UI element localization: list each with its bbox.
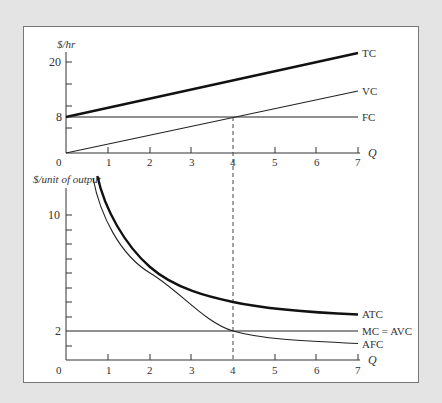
svg-text:2: 2	[147, 364, 153, 376]
mc-avc-label: MC = AVC	[362, 325, 412, 337]
bottom-q-label: Q	[368, 353, 377, 367]
bottom-y-axis-label: $/unit of output	[33, 173, 102, 185]
vc-line	[66, 91, 358, 153]
bottom-y-ticks	[66, 215, 72, 346]
atc-curve	[97, 176, 358, 315]
svg-text:2: 2	[147, 156, 153, 168]
top-y-axis-label: $/hr	[57, 38, 76, 50]
svg-text:0: 0	[56, 364, 62, 376]
svg-text:5: 5	[272, 156, 278, 168]
svg-text:6: 6	[314, 156, 320, 168]
svg-text:3: 3	[189, 156, 195, 168]
tc-line	[66, 53, 358, 117]
svg-text:6: 6	[314, 364, 320, 376]
bottom-x-tick-labels: 0 1 2 3 4 5 6 7	[56, 364, 361, 376]
fc-label: FC	[362, 111, 375, 123]
atc-label: ATC	[362, 308, 383, 320]
afc-label: AFC	[362, 338, 383, 350]
svg-text:3: 3	[189, 364, 195, 376]
top-y-tick-8: 8	[56, 110, 62, 124]
top-chart: $/hr 20 8 0 1 2 3 4 5 6	[49, 38, 377, 168]
top-q-label: Q	[368, 146, 377, 160]
svg-text:1: 1	[106, 364, 112, 376]
svg-text:0: 0	[56, 156, 62, 168]
bottom-y-tick-2: 2	[55, 324, 61, 338]
afc-curve	[93, 178, 358, 344]
bottom-y-tick-10: 10	[48, 208, 60, 222]
top-x-tick-labels: 0 1 2 3 4 5 6 7	[56, 156, 361, 168]
svg-text:1: 1	[106, 156, 112, 168]
vc-label: VC	[362, 85, 377, 97]
top-y-tick-20: 20	[49, 55, 61, 69]
svg-text:7: 7	[355, 364, 361, 376]
bottom-chart: $/unit of output 10 2 0 1 2	[33, 173, 412, 376]
svg-text:5: 5	[272, 364, 278, 376]
cost-curves-figure: $/hr 20 8 0 1 2 3 4 5 6	[0, 0, 442, 403]
svg-text:7: 7	[355, 156, 361, 168]
svg-text:4: 4	[230, 364, 236, 376]
top-y-ticks	[66, 62, 72, 128]
tc-label: TC	[362, 47, 376, 59]
